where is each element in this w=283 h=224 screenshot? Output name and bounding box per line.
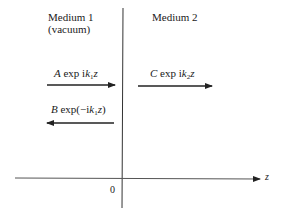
coef-b: B (51, 103, 58, 115)
variable: z (190, 67, 194, 79)
medium-2-name: Medium 2 (152, 11, 198, 23)
expr-close: ) (102, 103, 106, 115)
expr: exp(−i (60, 103, 89, 115)
coef-a: A (54, 67, 61, 79)
medium-1-label: Medium 1 (vacuum) (48, 11, 94, 35)
expr: exp i (63, 67, 85, 79)
diagram-lines (0, 0, 283, 224)
z-axis-label: z (265, 171, 269, 183)
origin-label: 0 (110, 184, 115, 196)
coef-c: C (150, 67, 157, 79)
medium-2-label: Medium 2 (152, 11, 198, 23)
reflected-wave-label: B exp(−ik1z) (51, 103, 106, 115)
incident-wave-label: A exp ik1z (54, 67, 98, 79)
medium-1-name: Medium 1 (48, 11, 94, 23)
expr: exp i (160, 67, 182, 79)
variable: z (94, 67, 98, 79)
transmitted-wave-label: C exp ik2z (150, 67, 194, 79)
z-axis (15, 178, 260, 179)
medium-1-note: (vacuum) (48, 23, 90, 35)
